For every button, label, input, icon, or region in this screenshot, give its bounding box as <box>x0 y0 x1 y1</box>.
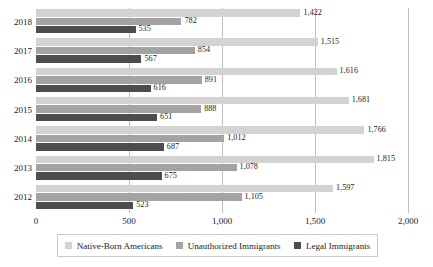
bar <box>36 126 364 133</box>
bar-group: 1,616891616 <box>36 67 408 96</box>
category-label: 2018 <box>0 17 32 27</box>
bar-value-label: 891 <box>202 76 217 83</box>
bar <box>36 18 181 25</box>
bar-value-label: 1,012 <box>224 134 245 141</box>
value-tick-label: 2,000 <box>398 216 418 226</box>
value-tick-label: 1,500 <box>305 216 325 226</box>
bar-value-label: 854 <box>195 46 210 53</box>
chart-legend: Native-Born AmericansUnauthorized Immigr… <box>57 234 378 257</box>
bar <box>36 76 202 83</box>
bar <box>36 26 136 33</box>
category-label: 2014 <box>0 134 32 144</box>
category-label: 2012 <box>0 192 32 202</box>
bar <box>36 105 201 112</box>
bar-value-label: 888 <box>201 105 216 112</box>
bar <box>36 68 337 75</box>
bar-group: 1,8151,078675 <box>36 154 408 183</box>
legend-item[interactable]: Unauthorized Immigrants <box>176 241 281 251</box>
bar <box>36 143 164 150</box>
bar <box>36 156 374 163</box>
bar-group: 1,681888651 <box>36 96 408 125</box>
bar-value-label: 1,597 <box>333 184 354 191</box>
bar <box>36 9 300 16</box>
legend-swatch-icon <box>176 242 183 249</box>
bar-chart: 1,4227825351,5158545671,6168916161,68188… <box>0 0 433 267</box>
value-tick-label: 1,000 <box>212 216 232 226</box>
legend-item[interactable]: Native-Born Americans <box>65 241 163 251</box>
legend-swatch-icon <box>294 242 301 249</box>
legend-item[interactable]: Legal Immigrants <box>294 241 370 251</box>
bar <box>36 202 133 209</box>
legend-label: Native-Born Americans <box>77 241 163 251</box>
plot-area: 1,4227825351,5158545671,6168916161,68188… <box>36 8 408 213</box>
bar <box>36 97 349 104</box>
bar-value-label: 1,515 <box>318 38 339 45</box>
bar-value-label: 1,078 <box>237 163 258 170</box>
gridline <box>408 8 409 213</box>
bar-value-label: 1,616 <box>337 67 358 74</box>
bar-value-label: 567 <box>141 55 156 62</box>
category-label: 2015 <box>0 105 32 115</box>
bar-value-label: 523 <box>133 201 148 208</box>
bar-group: 1,5971,105523 <box>36 184 408 213</box>
category-label: 2017 <box>0 46 32 56</box>
bar <box>36 38 318 45</box>
bar <box>36 185 333 192</box>
bar <box>36 85 151 92</box>
bar-value-label: 651 <box>157 113 172 120</box>
bar-value-label: 1,815 <box>374 155 395 162</box>
bar-value-label: 1,105 <box>242 193 263 200</box>
bar-value-label: 616 <box>151 84 166 91</box>
bar-group: 1,7661,012687 <box>36 125 408 154</box>
bar-value-label: 1,766 <box>364 126 385 133</box>
bar <box>36 114 157 121</box>
bar-value-label: 535 <box>136 25 151 32</box>
bar <box>36 164 237 171</box>
bar <box>36 47 195 54</box>
legend-label: Unauthorized Immigrants <box>188 241 281 251</box>
bar-value-label: 675 <box>162 172 177 179</box>
bar-value-label: 1,422 <box>300 9 321 16</box>
value-tick-label: 0 <box>34 216 39 226</box>
value-tick-label: 500 <box>122 216 136 226</box>
bar-group: 1,422782535 <box>36 8 408 37</box>
bar-value-label: 687 <box>164 143 179 150</box>
bar-value-label: 1,681 <box>349 96 370 103</box>
bar <box>36 172 162 179</box>
bar <box>36 55 141 62</box>
bar-value-label: 782 <box>181 17 196 24</box>
legend-label: Legal Immigrants <box>306 241 370 251</box>
category-label: 2013 <box>0 163 32 173</box>
bar-group: 1,515854567 <box>36 37 408 66</box>
legend-swatch-icon <box>65 242 72 249</box>
category-label: 2016 <box>0 75 32 85</box>
bar <box>36 135 224 142</box>
